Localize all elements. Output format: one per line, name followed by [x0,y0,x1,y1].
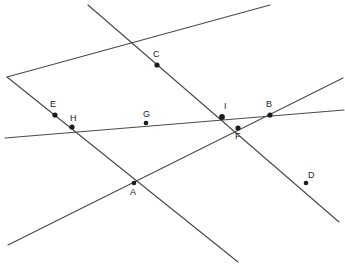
geometry-line-line-2 [7,5,270,77]
point-label-a: A [130,188,136,197]
geometry-diagram: ABCDEFGHI [0,0,345,273]
geometry-line-line-4 [8,78,343,245]
point-dot-e [52,112,57,117]
point-dot-b [267,112,272,117]
point-dot-i [219,114,225,120]
point-dot-g [144,121,149,126]
point-label-f: F [235,132,241,141]
point-dot-f [235,125,240,130]
point-label-d: D [308,171,315,180]
point-label-g: G [143,110,150,119]
point-label-i: I [224,102,227,111]
point-dot-c [154,62,159,67]
point-dot-a [132,181,137,186]
point-label-b: B [266,100,272,109]
geometry-canvas [0,0,345,273]
point-dot-d [304,181,309,186]
lines-group [5,5,344,262]
point-dot-h [69,124,74,129]
point-label-h: H [70,114,77,123]
point-label-c: C [153,50,160,59]
point-label-e: E [50,100,56,109]
